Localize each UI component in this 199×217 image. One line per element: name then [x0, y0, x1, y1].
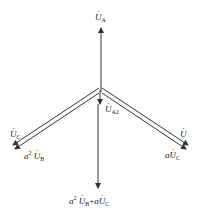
label-sum-sub2: C	[105, 201, 109, 207]
label-sum-base2: U	[99, 197, 106, 206]
label-auc-sub: C	[176, 155, 180, 161]
label-ua-base: U	[95, 13, 102, 22]
label-u-right: U	[180, 130, 187, 139]
phasor-a2ub	[15, 93, 99, 149]
label-sum-pow: 2	[74, 195, 77, 201]
phasor-u-right	[102, 88, 188, 145]
phasor-lines	[0, 0, 199, 217]
label-a2ub-left: a2 UB	[24, 150, 44, 162]
label-u-right-base: U	[180, 130, 187, 139]
label-auc-right: aUC	[165, 151, 180, 161]
label-ua2-sub: A2	[112, 109, 119, 115]
label-uc-sub: C	[17, 134, 21, 140]
label-uc-base: U	[10, 130, 17, 139]
phasor-uc	[13, 88, 99, 145]
label-ua2-base: U	[105, 105, 112, 114]
label-a2ub-pow: 2	[29, 150, 32, 156]
label-sum-base1: U	[79, 197, 86, 206]
label-sum: a2 UB+aUC	[69, 195, 109, 207]
label-uc-left: UC	[10, 130, 21, 140]
label-ua2: UA2	[105, 105, 119, 115]
label-ua: UA	[95, 13, 106, 23]
label-auc-base: U	[170, 151, 177, 160]
phasor-diagram: UA UA2 UC a2 UB U aUC a2 UB+aUC	[0, 0, 199, 217]
label-a2ub-sub: B	[40, 156, 44, 162]
label-ua-sub: A	[102, 17, 106, 23]
phasor-auc	[102, 93, 186, 149]
label-a2ub-base: U	[34, 152, 41, 161]
